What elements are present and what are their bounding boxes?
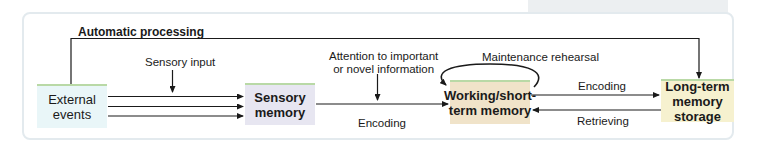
external-to-sensory-arrows [108, 97, 243, 117]
node-label-line: term memory [444, 103, 536, 118]
node-label-line: Long-term [661, 79, 734, 94]
label-sensory-input: Sensory input [145, 56, 215, 69]
node-working-memory: Working/short- term memory [450, 80, 530, 124]
label-attention: Attention to important or novel informat… [329, 50, 438, 76]
label-automatic-processing: Automatic processing [78, 26, 204, 39]
label-maintenance-rehearsal: Maintenance rehearsal [482, 51, 599, 64]
node-long-term-memory: Long-term memory storage [661, 79, 734, 122]
label-encoding-sensory-working: Encoding [358, 117, 406, 130]
node-sensory-memory: Sensory memory [245, 83, 315, 125]
label-attention-line-2: or novel information [329, 63, 438, 76]
node-external-events: External events [37, 84, 107, 128]
label-encoding-working-longterm: Encoding [578, 80, 626, 93]
label-attention-line-1: Attention to important [329, 50, 438, 63]
node-label-line: events [48, 107, 96, 122]
node-label-line: memory [254, 105, 305, 120]
node-label-line: memory storage [661, 94, 734, 124]
label-retrieving: Retrieving [577, 115, 629, 128]
node-label-line: External [48, 92, 96, 107]
node-label-line: Sensory [254, 90, 305, 105]
node-label-line: Working/short- [444, 88, 536, 103]
